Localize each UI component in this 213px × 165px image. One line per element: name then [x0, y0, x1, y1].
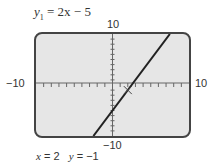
xmin-label: −10 [6, 77, 25, 89]
ymin-label: −10 [103, 139, 122, 151]
graph-screen [34, 32, 191, 138]
trace-cursor-icon [124, 86, 132, 94]
equation-label: y1 = 2x − 5 [34, 4, 91, 22]
trace-readout: x = 2 y = −1 [36, 150, 99, 162]
graph-plot [36, 34, 189, 136]
ymax-label: 10 [107, 18, 119, 30]
xmax-label: 10 [195, 77, 207, 89]
